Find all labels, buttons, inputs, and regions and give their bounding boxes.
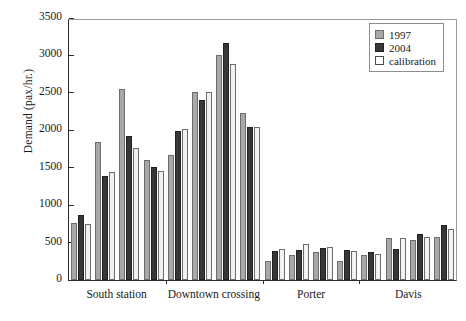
bar-1997 bbox=[361, 255, 367, 280]
bar-calibration bbox=[133, 148, 139, 280]
bar-1997 bbox=[192, 92, 198, 280]
legend-swatch-1997 bbox=[375, 30, 384, 39]
legend-label-1997: 1997 bbox=[389, 29, 411, 41]
bar-1997 bbox=[240, 113, 246, 280]
legend: 1997 2004 calibration bbox=[369, 23, 444, 72]
bar-cluster bbox=[69, 20, 93, 280]
bar-cluster bbox=[263, 20, 287, 280]
x-axis-label: South station bbox=[68, 288, 165, 308]
bar-calibration bbox=[254, 127, 260, 280]
bar-cluster bbox=[287, 20, 311, 280]
y-axis-tick-label: 2000 bbox=[39, 122, 62, 134]
y-axis-tick-label: 500 bbox=[45, 235, 62, 247]
bar-calibration bbox=[182, 129, 188, 280]
bar-2004 bbox=[102, 176, 108, 280]
bar-1997 bbox=[410, 240, 416, 280]
bar-2004 bbox=[272, 251, 278, 280]
bar-1997 bbox=[71, 223, 77, 280]
x-axis-tick-mark bbox=[359, 280, 360, 284]
bar-chart: Demand (pax/hr.) 05001000150020002500300… bbox=[0, 0, 466, 321]
bar-cluster bbox=[93, 20, 117, 280]
bar-2004 bbox=[344, 250, 350, 280]
x-axis-label: Davis bbox=[360, 288, 457, 308]
bar-2004 bbox=[368, 252, 374, 280]
x-axis-tick-mark bbox=[263, 280, 264, 284]
bar-cluster bbox=[238, 20, 262, 280]
bar-1997 bbox=[144, 160, 150, 280]
bar-calibration bbox=[448, 229, 454, 280]
bar-cluster bbox=[214, 20, 238, 280]
x-axis-label: Porter bbox=[263, 288, 360, 308]
bar-1997 bbox=[313, 252, 319, 280]
legend-label-2004: 2004 bbox=[389, 42, 411, 54]
bar-2004 bbox=[223, 43, 229, 280]
station-group bbox=[69, 20, 166, 280]
y-axis-tick-label: 3500 bbox=[39, 10, 62, 22]
bar-cluster bbox=[117, 20, 141, 280]
station-group bbox=[263, 20, 360, 280]
bar-1997 bbox=[337, 261, 343, 280]
bar-cluster bbox=[166, 20, 190, 280]
bar-1997 bbox=[119, 89, 125, 280]
bar-2004 bbox=[175, 131, 181, 280]
bar-2004 bbox=[78, 215, 84, 280]
x-axis-label: Downtown crossing bbox=[165, 288, 262, 308]
bar-1997 bbox=[386, 238, 392, 280]
bar-1997 bbox=[265, 261, 271, 280]
bar-calibration bbox=[158, 171, 164, 280]
bar-2004 bbox=[393, 249, 399, 280]
legend-item-1997: 1997 bbox=[375, 28, 436, 41]
legend-label-calibration: calibration bbox=[389, 55, 436, 67]
bar-cluster bbox=[335, 20, 359, 280]
bar-2004 bbox=[441, 225, 447, 280]
bar-1997 bbox=[95, 142, 101, 280]
y-axis-title: Demand (pax/hr.) bbox=[22, 21, 34, 201]
bar-cluster bbox=[311, 20, 335, 280]
bar-calibration bbox=[85, 224, 91, 280]
x-axis-labels: South stationDowntown crossingPorterDavi… bbox=[68, 288, 457, 308]
legend-swatch-2004 bbox=[375, 43, 384, 52]
legend-swatch-calibration bbox=[375, 56, 384, 65]
bar-calibration bbox=[303, 244, 309, 280]
legend-item-2004: 2004 bbox=[375, 41, 436, 54]
bar-calibration bbox=[400, 238, 406, 280]
bar-1997 bbox=[434, 237, 440, 280]
bar-1997 bbox=[216, 55, 222, 280]
bar-calibration bbox=[206, 92, 212, 280]
bar-2004 bbox=[199, 100, 205, 280]
bar-calibration bbox=[351, 251, 357, 280]
station-group bbox=[166, 20, 263, 280]
bar-2004 bbox=[151, 167, 157, 280]
bar-2004 bbox=[320, 248, 326, 280]
y-axis-tick-label: 0 bbox=[56, 272, 62, 284]
bar-2004 bbox=[126, 136, 132, 280]
bar-calibration bbox=[279, 249, 285, 280]
bar-1997 bbox=[168, 155, 174, 280]
bar-2004 bbox=[296, 250, 302, 280]
bar-2004 bbox=[417, 234, 423, 280]
x-axis-tick-mark bbox=[166, 280, 167, 284]
bar-calibration bbox=[424, 237, 430, 280]
y-axis-tick-label: 1500 bbox=[39, 160, 62, 172]
bar-calibration bbox=[375, 254, 381, 280]
bar-calibration bbox=[230, 64, 236, 280]
bar-2004 bbox=[247, 127, 253, 280]
bar-cluster bbox=[190, 20, 214, 280]
y-axis-tick-label: 1000 bbox=[39, 197, 62, 209]
y-axis-tick-label: 2500 bbox=[39, 85, 62, 97]
bar-calibration bbox=[109, 172, 115, 280]
bar-1997 bbox=[289, 255, 295, 280]
legend-item-calibration: calibration bbox=[375, 54, 436, 67]
bar-calibration bbox=[327, 247, 333, 280]
bar-cluster bbox=[142, 20, 166, 280]
y-axis-tick-mark bbox=[69, 18, 74, 19]
y-axis-tick-label: 3000 bbox=[39, 47, 62, 59]
